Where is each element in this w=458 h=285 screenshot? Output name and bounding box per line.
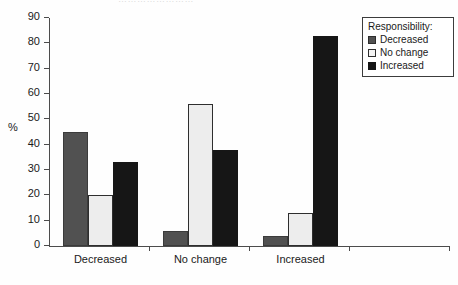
bar-no-change-decreased bbox=[163, 231, 188, 246]
y-axis-tick-label: 50 bbox=[28, 111, 40, 124]
plot-area: 0102030405060708090 bbox=[49, 18, 355, 246]
x-axis-tick bbox=[149, 246, 150, 251]
scan-artifact-text: …………………… bbox=[118, 0, 298, 2]
y-axis-tick-label: 40 bbox=[28, 137, 40, 150]
y-axis-label: % bbox=[8, 121, 18, 133]
y-axis-tick-label: 60 bbox=[28, 86, 40, 99]
x-axis-group-label: Increased bbox=[276, 253, 324, 265]
x-axis-tick bbox=[349, 246, 350, 251]
y-axis-tick-label: 80 bbox=[28, 35, 40, 48]
chart-page: …………………… % 0102030405060708090 Decreased… bbox=[0, 0, 458, 285]
bar-increased-no-change bbox=[288, 213, 313, 246]
y-axis-tick: 40 bbox=[44, 144, 49, 145]
y-axis-tick-label: 10 bbox=[28, 213, 40, 226]
x-axis-group-label: Decreased bbox=[74, 253, 127, 265]
y-axis-tick: 60 bbox=[44, 93, 49, 94]
bar-no-change-no-change bbox=[188, 104, 213, 246]
x-axis-tick bbox=[449, 246, 450, 251]
y-axis-tick: 20 bbox=[44, 194, 49, 195]
y-axis-tick-label: 70 bbox=[28, 61, 40, 74]
bar-increased-increased bbox=[313, 36, 338, 246]
bar-decreased-increased bbox=[113, 162, 138, 246]
bar-no-change-increased bbox=[213, 150, 238, 246]
legend-item-increased: Increased bbox=[368, 60, 447, 72]
legend-item-label: No change bbox=[380, 47, 428, 59]
y-axis-tick-label: 30 bbox=[28, 162, 40, 175]
y-axis-tick-label: 0 bbox=[34, 238, 40, 251]
legend-item-label: Decreased bbox=[380, 34, 428, 46]
bar-increased-decreased bbox=[263, 236, 288, 246]
y-axis-tick: 50 bbox=[44, 118, 49, 119]
x-axis-group-label: No change bbox=[174, 253, 227, 265]
legend: Responsibility: DecreasedNo changeIncrea… bbox=[362, 17, 454, 77]
y-axis-tick: 80 bbox=[44, 42, 49, 43]
legend-swatch-icon bbox=[368, 62, 376, 70]
legend-item-decreased: Decreased bbox=[368, 34, 447, 46]
y-axis-tick: 30 bbox=[44, 169, 49, 170]
y-axis-tick: 0 bbox=[44, 245, 49, 246]
y-axis-tick: 90 bbox=[44, 17, 49, 18]
legend-swatch-icon bbox=[368, 36, 376, 44]
y-axis-tick: 10 bbox=[44, 220, 49, 221]
bar-decreased-no-change bbox=[88, 195, 113, 246]
x-axis-tick bbox=[249, 246, 250, 251]
bar-decreased-decreased bbox=[63, 132, 88, 246]
legend-rows: DecreasedNo changeIncreased bbox=[368, 34, 447, 72]
y-axis-tick: 70 bbox=[44, 68, 49, 69]
legend-swatch-icon bbox=[368, 49, 376, 57]
y-axis-tick-label: 90 bbox=[28, 10, 40, 23]
legend-item-label: Increased bbox=[380, 60, 424, 72]
legend-item-no-change: No change bbox=[368, 47, 447, 59]
legend-title: Responsibility: bbox=[368, 21, 447, 33]
y-axis-tick-label: 20 bbox=[28, 187, 40, 200]
